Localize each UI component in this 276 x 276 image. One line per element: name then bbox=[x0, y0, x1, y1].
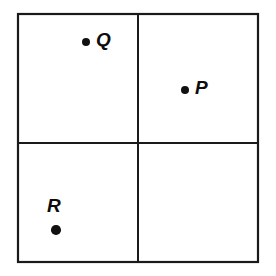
point-label-r: R bbox=[47, 196, 61, 215]
point-label-p: P bbox=[195, 78, 208, 97]
diagram-canvas: Q P R bbox=[0, 0, 276, 276]
quadrant-frame-svg bbox=[0, 0, 276, 276]
point-dot-r bbox=[51, 225, 61, 235]
point-label-q: Q bbox=[96, 30, 111, 49]
